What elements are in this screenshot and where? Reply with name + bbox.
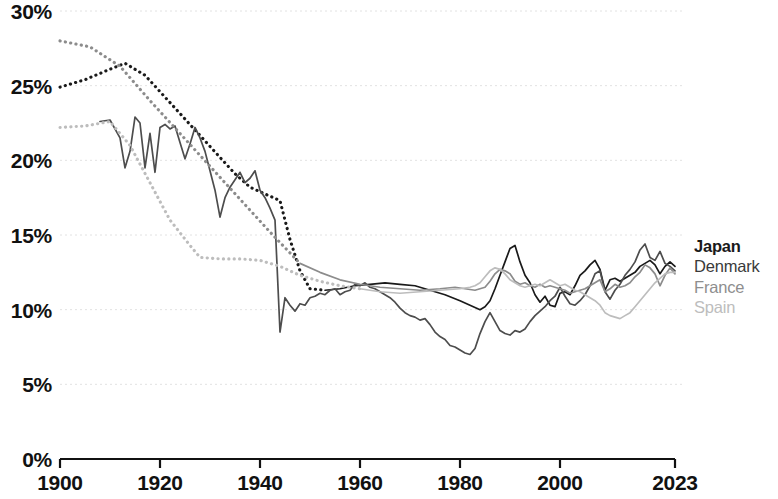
- line-chart: 30%25%20%15%10%5%0% 19001920194019601980…: [0, 0, 778, 499]
- plot-area: [0, 0, 778, 499]
- series-line-japan: [325, 245, 675, 309]
- y-tick-label: 10%: [0, 299, 52, 323]
- y-tick-label: 15%: [0, 224, 52, 248]
- series-line-spain: [360, 268, 675, 319]
- legend-item-spain[interactable]: Spain: [694, 297, 778, 317]
- legend-item-japan[interactable]: Japan: [694, 236, 778, 256]
- y-tick-label: 5%: [0, 373, 52, 397]
- series-line-france: [300, 263, 675, 293]
- legend-item-denmark[interactable]: Denmark: [694, 256, 778, 276]
- x-tick-label: 1920: [120, 471, 200, 495]
- legend: Japan Denmark France Spain: [694, 236, 778, 318]
- x-axis-line: [60, 459, 675, 468]
- x-tick-label: 1940: [220, 471, 300, 495]
- series-lines: [60, 41, 675, 355]
- x-tick-label: 1960: [320, 471, 400, 495]
- y-tick-label: 25%: [0, 75, 52, 99]
- x-tick-label: 2000: [520, 471, 600, 495]
- gridlines: [60, 11, 685, 384]
- y-tick-label: 30%: [0, 0, 52, 24]
- series-line-denmark: [100, 117, 675, 354]
- x-tick-label: 1900: [20, 471, 100, 495]
- y-tick-label: 0%: [0, 448, 52, 472]
- x-tick-label: 2023: [635, 471, 715, 495]
- series-line-japan-estimated: [60, 63, 325, 290]
- legend-item-france[interactable]: France: [694, 277, 778, 297]
- y-tick-label: 20%: [0, 149, 52, 173]
- x-tick-label: 1980: [420, 471, 500, 495]
